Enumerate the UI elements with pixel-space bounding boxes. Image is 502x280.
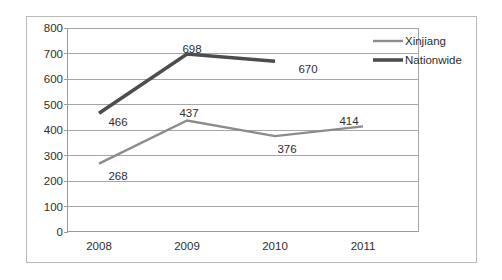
data-label-nationwide-2010: 670 [298, 63, 317, 75]
y-tick-label: 0 [57, 226, 63, 238]
data-label-xinjiang-2008: 268 [108, 170, 127, 182]
legend-item-nationwide[interactable]: Nationwide [373, 54, 462, 66]
legend-label-nationwide: Nationwide [405, 54, 462, 66]
y-tick-label: 800 [44, 22, 63, 34]
y-axis-tick-labels: 800 700 600 500 400 300 200 100 0 [44, 22, 63, 238]
y-tick-label: 200 [44, 175, 63, 187]
series-line-xinjiang [99, 121, 363, 164]
legend-label-xinjiang: Xinjiang [405, 35, 446, 47]
data-label-xinjiang-2011: 414 [339, 115, 359, 127]
y-tick-label: 300 [44, 150, 63, 162]
data-label-xinjiang-2009: 437 [179, 107, 198, 119]
data-label-nationwide-2008: 466 [108, 116, 127, 128]
chart-container: 800 700 600 500 400 300 200 100 0 [26, 16, 477, 263]
data-labels: 466 698 670 268 437 376 414 [108, 43, 359, 182]
y-tick-label: 100 [44, 201, 63, 213]
data-label-xinjiang-2010: 376 [277, 143, 296, 155]
y-tick-label: 500 [44, 99, 63, 111]
data-label-nationwide-2009: 698 [182, 43, 201, 55]
y-tick-label: 400 [44, 124, 63, 136]
y-tick-label: 600 [44, 73, 63, 85]
x-axis-tick-labels: 2008 2009 2010 2011 [86, 240, 375, 252]
x-tick-label: 2009 [174, 240, 200, 252]
chart-legend: Xinjiang Nationwide [373, 35, 462, 66]
x-tick-label: 2011 [351, 240, 376, 252]
legend-item-xinjiang[interactable]: Xinjiang [373, 35, 446, 47]
x-tick-label: 2010 [262, 240, 288, 252]
line-chart: 800 700 600 500 400 300 200 100 0 [27, 17, 476, 262]
x-tick-label: 2008 [86, 240, 112, 252]
y-tick-label: 700 [44, 48, 63, 60]
